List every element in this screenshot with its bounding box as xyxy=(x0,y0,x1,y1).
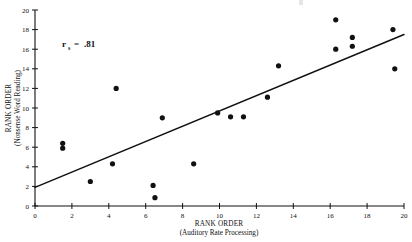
data-point xyxy=(241,114,246,119)
x-tick-label: 8 xyxy=(181,212,185,220)
annotation-subscript: s xyxy=(68,45,71,51)
y-tick-label: 20 xyxy=(22,7,30,15)
regression-line xyxy=(35,35,404,188)
y-tick-label: 12 xyxy=(22,85,30,93)
x-axis-title: RANK ORDER xyxy=(195,220,244,228)
regression-line-path xyxy=(35,35,404,188)
x-tick-label: 10 xyxy=(216,212,224,220)
x-tick-label: 6 xyxy=(144,212,148,220)
data-points xyxy=(60,17,397,200)
x-tick-label: 0 xyxy=(33,212,37,220)
data-point xyxy=(60,141,65,146)
annotation-operator: = xyxy=(74,39,79,49)
annotation-value: .81 xyxy=(84,39,96,49)
y-tick-label: 16 xyxy=(22,46,30,54)
data-point xyxy=(390,27,395,32)
y-tick-label: 10 xyxy=(22,105,30,113)
data-point xyxy=(333,47,338,52)
y-tick-label: 18 xyxy=(22,26,30,34)
annotation-symbol: r xyxy=(62,39,66,49)
data-point xyxy=(110,161,115,166)
y-axis-subtitle: (Nonsense Word Reading) xyxy=(14,69,22,146)
x-tick-label: 4 xyxy=(107,212,111,220)
data-point xyxy=(160,115,165,120)
y-tick-label: 0 xyxy=(26,203,30,211)
y-tick-label: 2 xyxy=(26,183,30,191)
data-point xyxy=(350,35,355,40)
x-tick-label: 12 xyxy=(253,212,261,220)
data-point xyxy=(228,114,233,119)
y-tick-label: 6 xyxy=(26,144,30,152)
data-point xyxy=(114,86,119,91)
annotation-correlation: r s = .81 xyxy=(62,39,96,51)
data-point xyxy=(191,161,196,166)
data-point xyxy=(60,146,65,151)
data-point xyxy=(333,17,338,22)
x-axis-title-group: RANK ORDER (Auditory Rate Processing) xyxy=(180,220,259,237)
y-tick-label: 14 xyxy=(22,65,30,73)
x-tick-label: 14 xyxy=(290,212,298,220)
data-point xyxy=(150,183,155,188)
data-point xyxy=(276,63,281,68)
y-tick-label: 8 xyxy=(26,124,30,132)
data-point xyxy=(350,44,355,49)
data-point xyxy=(88,179,93,184)
data-point xyxy=(392,66,397,71)
x-tick-label: 20 xyxy=(401,212,409,220)
y-tick-label: 4 xyxy=(26,163,30,171)
x-axis-subtitle: (Auditory Rate Processing) xyxy=(180,229,259,237)
x-tick-label: 2 xyxy=(70,212,74,220)
plot-canvas: 0246810121416182002468101214161820 r s =… xyxy=(0,0,412,242)
data-point xyxy=(152,195,157,200)
x-tick-label: 16 xyxy=(327,212,335,220)
y-axis-title: RANK ORDER xyxy=(5,84,13,133)
y-axis-title-group: RANK ORDER (Nonsense Word Reading) xyxy=(5,69,22,146)
data-point xyxy=(215,110,220,115)
page-artifact-mark xyxy=(299,0,303,5)
scatter-plot-figure: 0246810121416182002468101214161820 r s =… xyxy=(0,0,412,242)
data-point xyxy=(265,95,270,100)
x-tick-label: 18 xyxy=(364,212,372,220)
